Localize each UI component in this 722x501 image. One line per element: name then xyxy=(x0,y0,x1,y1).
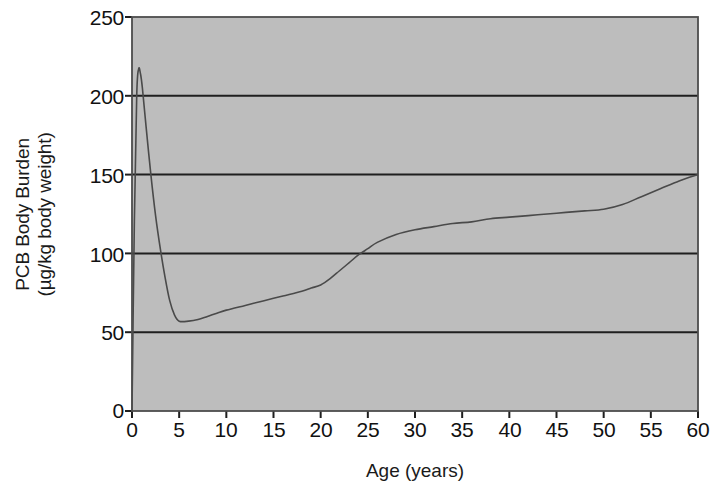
x-tick-label-60: 60 xyxy=(687,418,710,442)
x-tick-label-15: 15 xyxy=(263,418,286,442)
x-tick-label-25: 25 xyxy=(357,418,380,442)
x-tick-label-10: 10 xyxy=(215,418,238,442)
x-axis-title: Age (years) xyxy=(132,460,698,482)
x-tick-label-40: 40 xyxy=(499,418,522,442)
x-tick-label-20: 20 xyxy=(310,418,333,442)
x-tick-label-0: 0 xyxy=(126,418,137,442)
x-tick-label-35: 35 xyxy=(451,418,474,442)
pcb-body-burden-chart: PCB Body Burden (µg/kg body weight) 250 … xyxy=(0,0,722,501)
x-tick-label-50: 50 xyxy=(593,418,616,442)
x-tick-label-5: 5 xyxy=(173,418,184,442)
x-tick-label-30: 30 xyxy=(404,418,427,442)
x-axis-tick-labels: 0 5 10 15 20 25 30 35 40 45 50 55 60 xyxy=(0,0,722,501)
x-tick-label-55: 55 xyxy=(640,418,663,442)
x-tick-label-45: 45 xyxy=(546,418,569,442)
